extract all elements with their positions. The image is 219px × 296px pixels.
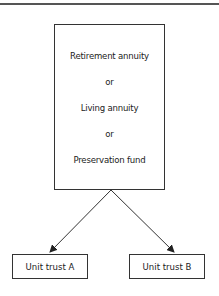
source-line-living-annuity: Living annuity — [55, 102, 164, 113]
arrow-to-unit-trust-b — [111, 190, 174, 252]
unit-trust-b-label: Unit trust B — [143, 261, 192, 272]
source-line-preservation-fund: Preservation fund — [55, 154, 164, 165]
source-line-or-1: or — [55, 76, 164, 87]
source-box: Retirement annuity or Living annuity or … — [54, 24, 165, 190]
arrow-to-unit-trust-a — [50, 190, 111, 252]
source-line-retirement-annuity: Retirement annuity — [55, 50, 164, 61]
source-line-or-2: or — [55, 128, 164, 139]
unit-trust-b-box: Unit trust B — [129, 254, 205, 279]
unit-trust-a-label: Unit trust A — [26, 261, 75, 272]
unit-trust-a-box: Unit trust A — [12, 254, 88, 279]
